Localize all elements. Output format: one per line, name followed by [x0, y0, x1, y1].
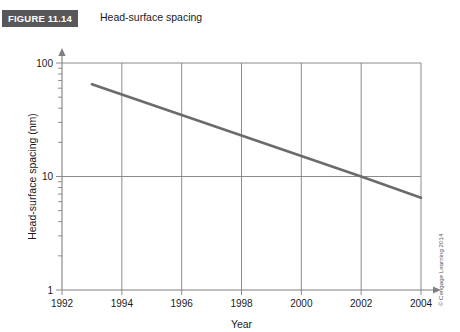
y-axis-arrow-icon [58, 48, 65, 56]
y-tick-label: 100 [36, 58, 53, 69]
line-chart: 110100 1992199419961998200020022004 Head… [0, 30, 460, 332]
y-minor-ticks-group [58, 68, 62, 256]
x-tick-label: 1998 [230, 298, 253, 309]
y-tick-label: 10 [42, 171, 54, 182]
figure-caption: Head-surface spacing [100, 11, 202, 23]
figure-header: FIGURE 11.14 Head-surface spacing [0, 0, 460, 34]
x-tick-label: 1994 [111, 298, 134, 309]
y-axis-title: Head-surface spacing (nm) [26, 113, 38, 240]
figure-number-banner: FIGURE 11.14 [2, 10, 78, 27]
x-ticks-group [62, 290, 421, 295]
x-tick-label: 2004 [410, 298, 433, 309]
x-tick-labels-group: 1992199419961998200020022004 [51, 298, 433, 309]
x-tick-label: 1992 [51, 298, 74, 309]
x-axis-title: Year [231, 318, 253, 330]
x-tick-label: 2002 [350, 298, 373, 309]
axes-group [58, 48, 441, 294]
figure-number-label: FIGURE 11.14 [8, 13, 72, 24]
chart-container: 110100 1992199419961998200020022004 Head… [0, 30, 460, 332]
x-tick-label: 1996 [171, 298, 194, 309]
x-tick-label: 2000 [290, 298, 313, 309]
data-series-line [92, 84, 421, 198]
copyright-credit: © Cengage Learning 2014 [437, 233, 444, 306]
y-tick-labels-group: 110100 [36, 58, 53, 296]
y-tick-label: 1 [47, 285, 53, 296]
